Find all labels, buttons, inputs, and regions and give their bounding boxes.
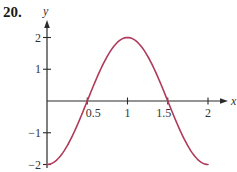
x-axis: x 0.511.52	[47, 94, 237, 120]
y-tick-label: −2	[28, 158, 41, 172]
y-tick-label: −1	[28, 126, 41, 140]
problem-number: 20.	[3, 4, 22, 20]
x-axis-arrow-icon	[220, 98, 228, 104]
x-tick-label: 1.5	[156, 106, 171, 120]
y-tick-label: 1	[35, 62, 41, 76]
y-axis-arrow-icon	[44, 20, 50, 28]
y-tick-label: 2	[35, 31, 41, 45]
x-axis-label: x	[230, 94, 237, 108]
chart: 20. y 21−1−2 x 0.511.52	[0, 0, 237, 172]
x-tick-label: 0.5	[86, 106, 101, 120]
x-tick-label: 2	[205, 106, 211, 120]
y-axis: y 21−1−2	[28, 4, 51, 172]
x-tick-label: 1	[125, 106, 131, 120]
y-axis-label: y	[42, 4, 49, 18]
